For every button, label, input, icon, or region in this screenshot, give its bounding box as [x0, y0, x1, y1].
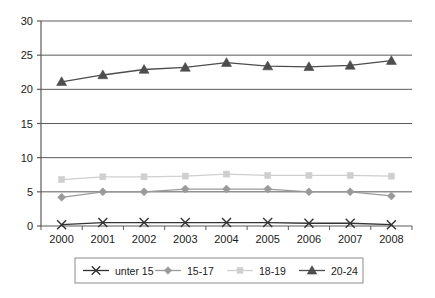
x-tick-labels: 200020012002200320042005200620072008 — [49, 233, 403, 245]
y-tick-label: 5 — [27, 186, 33, 198]
x-tick-label: 2008 — [379, 233, 403, 245]
legend-label: 18-19 — [259, 265, 286, 277]
legend-label: 15-17 — [187, 265, 214, 277]
x-tick-label: 2000 — [49, 233, 73, 245]
y-tick-label: 0 — [27, 220, 33, 232]
square-marker — [347, 172, 353, 178]
square-marker — [306, 172, 312, 178]
x-tick-label: 2001 — [91, 233, 115, 245]
square-marker — [265, 172, 271, 178]
x-tick-label: 2003 — [173, 233, 197, 245]
x-tick-label: 2002 — [132, 233, 156, 245]
square-marker — [388, 173, 394, 179]
square-marker — [237, 268, 243, 274]
chart-canvas: 302520151050 200020012002200320042005200… — [0, 0, 435, 298]
chart-legend: unter 1515-1718-1920-24 — [75, 258, 363, 283]
square-marker — [224, 171, 230, 177]
x-tick-label: 2007 — [338, 233, 362, 245]
x-tick-label: 2006 — [297, 233, 321, 245]
square-marker — [141, 174, 147, 180]
square-marker — [59, 177, 65, 183]
chart-background — [0, 0, 435, 298]
x-tick-label: 2004 — [214, 233, 238, 245]
line-chart: 302520151050 200020012002200320042005200… — [0, 0, 435, 298]
x-tick-label: 2005 — [255, 233, 279, 245]
square-marker — [100, 174, 106, 180]
y-tick-label: 20 — [21, 83, 33, 95]
y-tick-label: 10 — [21, 152, 33, 164]
y-tick-label: 25 — [21, 49, 33, 61]
y-tick-label: 15 — [21, 118, 33, 130]
legend-label: unter 15 — [115, 265, 154, 277]
y-tick-label: 30 — [21, 15, 33, 27]
legend-label: 20-24 — [331, 265, 358, 277]
square-marker — [182, 173, 188, 179]
